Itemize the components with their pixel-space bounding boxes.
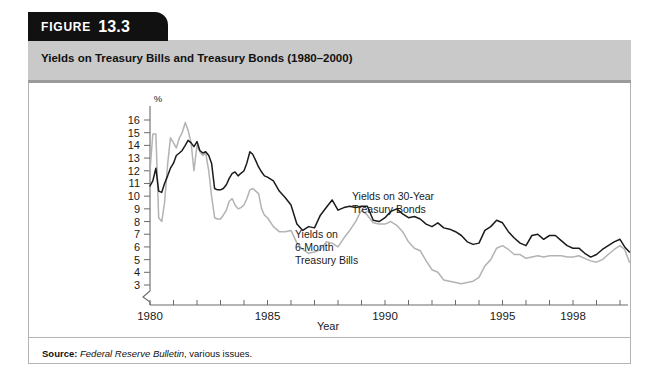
x-tick-label: 1998 [560,310,586,322]
y-tick-label: 6 [134,241,140,253]
y-tick-label: 16 [128,114,140,126]
y-tick-label: 3 [134,279,140,291]
x-tick-label: 1995 [490,310,516,322]
annotation-bonds-line2: Treasury Bonds [352,203,426,215]
y-tick-label: 15 [128,127,140,139]
annotation-bills-line3: Treasury Bills [295,254,358,266]
y-tick-label: 14 [128,139,140,151]
annotation-bills-line1: Yields on [295,228,338,240]
y-axis-unit-label: % [154,93,163,104]
y-tick-label: 13 [128,152,140,164]
figure-container: FIGURE 13.3 Yields on Treasury Bills and… [0,0,659,390]
x-axis-ticks [150,300,620,305]
y-tick-label: 9 [134,203,140,215]
y-axis-tick-labels: 161514131211109876543 [128,114,140,291]
x-tick-label: 1980 [137,310,163,322]
source-divider [28,337,631,338]
title-band: Yields on Treasury Bills and Treasury Bo… [28,40,631,80]
figure-badge-number: 13.3 [98,18,130,36]
y-tick-label: 7 [134,228,140,240]
source-publication: Federal Reserve Bulletin [80,348,184,359]
y-tick-label: 11 [129,177,140,189]
source-note: Source: Federal Reserve Bulletin, variou… [42,348,252,359]
y-tick-label: 5 [134,254,140,266]
y-axis-break-symbol [143,287,150,305]
annotation-bills-line2: 6-Month [295,241,334,253]
x-axis-tick-labels: 19801985199019951998 [137,310,586,322]
x-tick-label: 1990 [372,310,398,322]
x-axis-title: Year [317,320,340,332]
annotation-bonds-line1: Yields on 30-Year [352,190,435,202]
figure-badge: FIGURE 13.3 [28,12,168,41]
figure-title: Yields on Treasury Bills and Treasury Bo… [41,52,353,64]
figure-badge-word: FIGURE [41,20,91,34]
yields-line-chart: 161514131211109876543 198019851990199519… [28,82,631,337]
y-axis-ticks [144,120,150,285]
source-trailing: , various issues. [184,348,252,359]
source-label: Source: [42,348,77,359]
x-tick-label: 1985 [255,310,281,322]
y-tick-label: 8 [134,216,140,228]
y-tick-label: 4 [134,266,140,278]
chart-plot-area: 161514131211109876543 198019851990199519… [28,82,631,337]
y-tick-label: 10 [128,190,140,202]
y-tick-label: 12 [128,165,140,177]
